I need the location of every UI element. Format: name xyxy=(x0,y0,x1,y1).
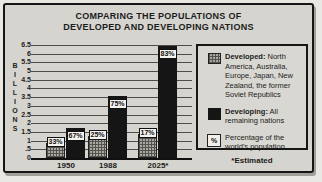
estimated-footnote: *Estimated xyxy=(196,156,308,165)
y-tick-label: 3.5 xyxy=(12,93,31,101)
bar-percent-label: 83% xyxy=(158,49,176,59)
y-tick-label: .5 xyxy=(12,145,31,153)
y-tick-label: 5 xyxy=(12,67,31,75)
x-category-label: 2025* xyxy=(136,161,180,170)
developing-black-swatch-icon xyxy=(208,108,221,120)
bar-percent-label: 67% xyxy=(66,131,84,141)
legend-item-percentage: % Percentage of the world's population xyxy=(203,133,301,152)
bar-percent-label: 75% xyxy=(108,99,126,109)
legend-developing-term: Developing: xyxy=(225,107,268,116)
y-tick-label: 1.5 xyxy=(12,128,31,136)
y-tick-label: 4 xyxy=(12,84,31,92)
bar-percent-label: 25% xyxy=(88,130,106,140)
percent-swatch-icon: % xyxy=(207,134,221,147)
chart-plot-area: 6.565.554.543.532.521.51.5033%67%195025%… xyxy=(34,45,192,158)
bar-developing-2025 xyxy=(158,46,177,158)
legend-item-developing: Developing: All remaining nations xyxy=(203,107,301,126)
bar-percent-label: 33% xyxy=(46,137,64,147)
legend-percentage-text: Percentage of the world's population xyxy=(225,133,285,152)
y-tick-label: 4.5 xyxy=(12,76,31,84)
population-comparison-figure: COMPARING THE POPULATIONS OF DEVELOPED A… xyxy=(0,0,322,182)
y-tick-label: 3 xyxy=(12,102,31,110)
legend-developed-term: Developed: xyxy=(225,52,265,61)
y-tick-label: 5.5 xyxy=(12,58,31,66)
chart-title-line2: DEVELOPED AND DEVELOPING NATIONS xyxy=(5,22,312,32)
y-tick-label: 6.5 xyxy=(12,41,31,49)
y-tick-label: 0 xyxy=(12,154,31,162)
legend-box: Developed: North America, Australia, Eur… xyxy=(196,44,308,150)
chart-title-line1: COMPARING THE POPULATIONS OF xyxy=(5,11,312,21)
legend-item-developed: Developed: North America, Australia, Eur… xyxy=(203,52,301,100)
developed-hatched-swatch-icon xyxy=(208,53,221,64)
y-tick-label: 1 xyxy=(12,137,31,145)
y-tick-label: 2 xyxy=(12,119,31,127)
x-axis-baseline xyxy=(31,158,192,160)
bar-percent-label: 17% xyxy=(138,128,156,138)
y-tick-label: 2.5 xyxy=(12,111,31,119)
y-tick-label: 6 xyxy=(12,50,31,58)
figure-frame: COMPARING THE POPULATIONS OF DEVELOPED A… xyxy=(3,3,314,173)
x-category-label: 1988 xyxy=(86,161,130,170)
x-category-label: 1950 xyxy=(44,161,88,170)
